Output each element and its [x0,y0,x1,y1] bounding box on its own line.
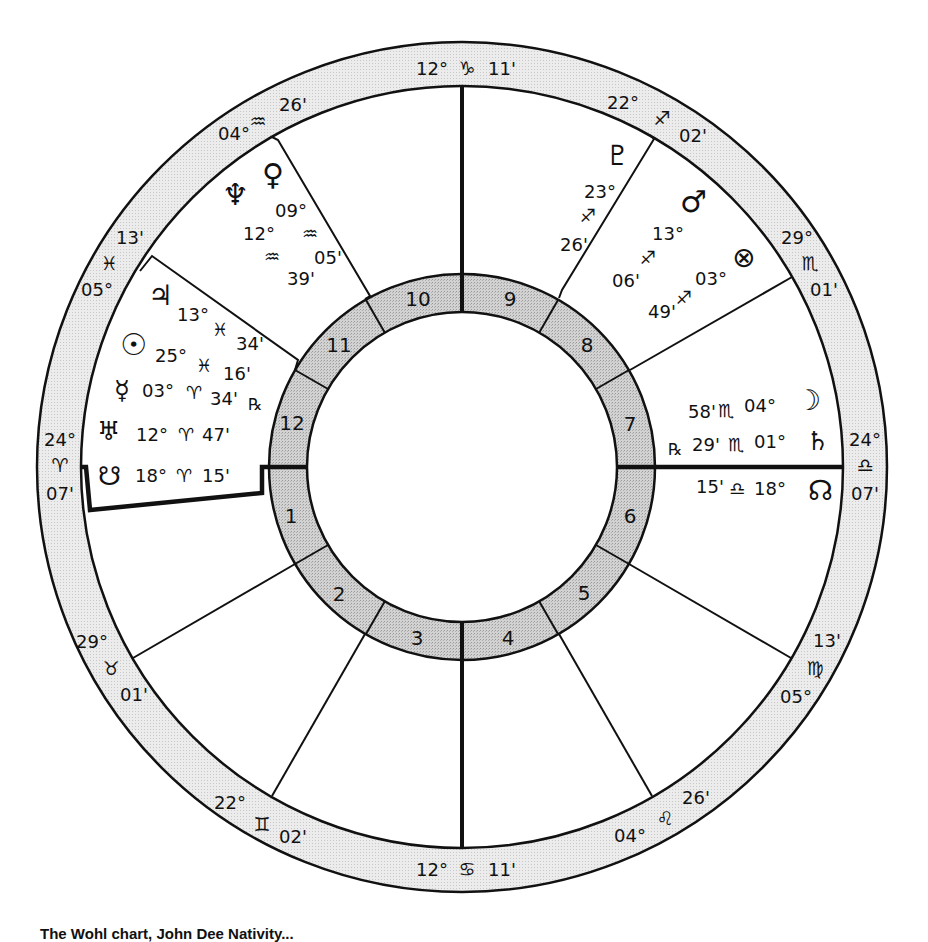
house-number-11: 11 [326,333,351,357]
svg-text:04°: 04° [218,123,250,144]
svg-text:29': 29' [692,434,720,455]
house-number-4: 4 [502,626,515,650]
retrograde-icon: ℞ [248,395,262,414]
house-ring: 1 2 3 4 5 6 7 8 9 10 11 12 [269,274,655,660]
svg-text:05°: 05° [780,686,812,707]
svg-text:26': 26' [682,787,710,808]
house-number-2: 2 [333,582,346,606]
svg-text:11': 11' [488,58,516,79]
svg-text:♉: ♉ [102,657,119,679]
svg-text:01': 01' [810,279,838,300]
svg-text:♈: ♈ [186,382,202,403]
svg-text:18°: 18° [135,465,167,486]
svg-text:09°: 09° [275,200,307,221]
svg-text:39': 39' [287,268,315,289]
neptune-icon: ♆ [222,177,249,212]
svg-text:05': 05' [314,247,342,268]
svg-text:29°: 29° [76,631,108,652]
svg-text:22°: 22° [214,792,246,813]
house-number-5: 5 [578,581,591,605]
svg-text:18°: 18° [754,478,786,499]
house-number-10: 10 [405,287,430,311]
svg-text:13°: 13° [177,304,209,325]
part-of-fortune-icon: ⊗ [732,241,755,274]
chart-caption: The Wohl chart, John Dee Nativity... [40,925,294,942]
svg-text:♐: ♐ [580,205,596,226]
svg-text:12°: 12° [416,58,448,79]
svg-text:♋: ♋ [458,858,475,880]
svg-text:♐: ♐ [676,287,692,308]
svg-text:♓: ♓ [212,319,228,340]
saturn-icon: ♄ [806,426,829,456]
svg-text:♐: ♐ [640,247,656,268]
venus-icon: ♀ [262,157,284,192]
house-number-9: 9 [504,287,517,311]
svg-text:15': 15' [202,465,230,486]
retrograde-icon: ℞ [668,440,682,459]
house-number-1: 1 [285,504,298,528]
svg-text:♈: ♈ [176,465,192,486]
svg-text:07': 07' [851,483,879,504]
svg-text:♓: ♓ [196,355,212,376]
svg-text:♐: ♐ [653,107,670,129]
svg-text:15': 15' [696,476,724,497]
svg-text:16': 16' [223,363,251,384]
svg-text:03°: 03° [695,268,727,289]
svg-text:24°: 24° [44,429,76,450]
svg-text:13°: 13° [652,223,684,244]
svg-text:♊: ♊ [253,813,270,835]
svg-text:58': 58' [688,401,716,422]
svg-text:01°: 01° [754,431,786,452]
svg-text:♑: ♑ [458,57,475,79]
svg-text:22°: 22° [607,92,639,113]
svg-text:34': 34' [210,388,238,409]
house-number-12: 12 [279,411,304,435]
svg-text:02': 02' [279,826,307,847]
svg-text:♏: ♏ [728,434,744,455]
jupiter-icon: ♃ [148,279,173,312]
svg-text:34': 34' [236,333,264,354]
svg-text:12°: 12° [416,859,448,880]
sun-icon: ☉ [120,327,147,362]
mercury-icon: ☿ [114,375,130,405]
svg-text:26': 26' [279,94,307,115]
svg-text:♈: ♈ [178,424,194,445]
mars-icon: ♂ [680,184,707,219]
house-number-8: 8 [581,333,594,357]
svg-text:♈: ♈ [51,454,68,476]
svg-text:23°: 23° [584,181,616,202]
svg-text:29°: 29° [781,227,813,248]
svg-text:♒: ♒ [264,246,280,267]
moon-icon: ☽ [796,384,821,417]
svg-text:04°: 04° [614,825,646,846]
svg-text:11': 11' [488,859,516,880]
svg-text:05°: 05° [81,279,113,300]
svg-text:♍: ♍ [806,657,823,679]
svg-text:06': 06' [612,270,640,291]
svg-text:49': 49' [648,301,676,322]
uranus-icon: ♅ [97,416,120,446]
pluto-icon: ♇ [605,139,630,172]
svg-text:02': 02' [679,125,707,146]
svg-text:07': 07' [46,483,74,504]
svg-text:♎: ♎ [729,478,745,499]
south-node-icon: ☋ [98,461,121,491]
svg-text:12°: 12° [136,424,168,445]
svg-text:♏: ♏ [801,252,818,274]
svg-text:♏: ♏ [718,400,734,421]
svg-text:12°: 12° [243,223,275,244]
svg-text:01': 01' [120,684,148,705]
svg-text:26': 26' [560,234,588,255]
house-number-7: 7 [624,412,637,436]
svg-text:♒: ♒ [302,223,318,244]
svg-text:24°: 24° [849,429,881,450]
svg-text:♓: ♓ [100,252,117,274]
svg-text:13': 13' [116,227,144,248]
house-number-6: 6 [624,504,637,528]
svg-text:04°: 04° [744,395,776,416]
svg-text:25°: 25° [155,345,187,366]
svg-text:47': 47' [202,424,230,445]
house-number-3: 3 [411,626,424,650]
north-node-icon: ☊ [808,474,833,507]
